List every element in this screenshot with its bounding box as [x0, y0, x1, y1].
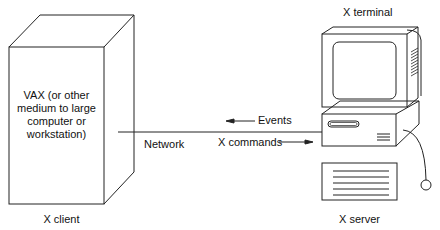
client-text-line: workstation): [9, 128, 104, 141]
x-server-caption: X server: [339, 213, 380, 226]
x-terminal-label: X terminal: [343, 6, 393, 19]
client-caption: X client: [14, 213, 109, 226]
terminal-monitor: [322, 27, 421, 107]
client-text-line: medium to large: [9, 102, 104, 115]
client-text-line: VAX (or other: [9, 89, 104, 102]
terminal-base: [322, 101, 419, 146]
x-commands-label: X commands: [218, 136, 282, 149]
events-label: Events: [258, 114, 292, 127]
terminal-keyboard: [322, 163, 397, 200]
network-label: Network: [144, 138, 184, 151]
client-text-line: computer or: [9, 115, 104, 128]
client-box-text: VAX (or other medium to large computer o…: [9, 89, 104, 141]
